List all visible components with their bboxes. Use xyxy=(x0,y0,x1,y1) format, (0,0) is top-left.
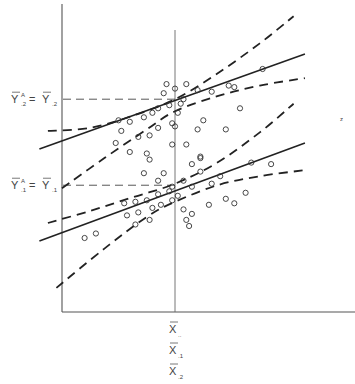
group-1-data-point xyxy=(141,171,146,176)
adjusted-mean-group-1-label: YA.1=Y.1 xyxy=(11,178,58,193)
adjusted-mean-symbol: Y xyxy=(11,179,19,191)
subscript: .2 xyxy=(178,374,184,380)
group-1-data-point xyxy=(93,231,98,236)
superscript: A xyxy=(21,178,25,184)
group-1-data-point xyxy=(189,211,194,216)
group-1-data-point xyxy=(136,210,141,215)
group-1-data-point xyxy=(156,192,161,197)
group-1-data-point xyxy=(147,157,152,162)
group-1-data-point xyxy=(184,217,189,222)
group-1-data-point xyxy=(158,202,163,207)
group-2-data-point xyxy=(167,103,172,108)
group-1-data-point xyxy=(147,217,152,222)
group-1-data-point xyxy=(181,207,186,212)
group-2-data-point xyxy=(164,82,169,87)
group-1-data-point xyxy=(189,162,194,167)
group-2-data-point xyxy=(144,151,149,156)
superscript: A xyxy=(21,92,25,98)
group-2-data-point xyxy=(170,121,175,126)
x-mean-symbol: X xyxy=(169,323,177,335)
group-mean-symbol: Y xyxy=(42,179,50,191)
group-1-data-point xyxy=(156,178,161,183)
group-2-data-point xyxy=(150,110,155,115)
group-2-data-point xyxy=(184,142,189,147)
group-1-data-point xyxy=(133,222,138,227)
group-1-data-point xyxy=(269,162,274,167)
group-1-data-point xyxy=(124,213,129,218)
group-1-data-point xyxy=(170,142,175,147)
group-1-data-point xyxy=(206,202,211,207)
group-mean-symbol: Y xyxy=(42,93,50,105)
x-mean-symbol: X xyxy=(169,365,177,377)
subscript: .. xyxy=(178,332,182,338)
subscript: .1 xyxy=(178,353,184,359)
group-1-data-point xyxy=(198,169,203,174)
group-2-data-point xyxy=(127,119,132,124)
grand-mean-label: X.. xyxy=(169,322,182,338)
group-1-lower-confidence-band xyxy=(56,170,305,288)
group-2-data-point xyxy=(119,128,124,133)
subscript: .2 xyxy=(52,101,58,107)
group-1-data-point xyxy=(170,198,175,203)
ancova-diagram: YA.2=Y.2YA.1=Y.1 X..X.1X.2 z xyxy=(0,0,355,384)
group-2-data-point xyxy=(184,82,189,87)
group-2-data-point xyxy=(156,125,161,130)
group-2-data-point xyxy=(232,85,237,90)
x-mean-symbol: X xyxy=(169,344,177,356)
group-1-data-point xyxy=(122,201,127,206)
group-1-data-point xyxy=(209,181,214,186)
equals-sign: = xyxy=(29,179,35,191)
group-1-data-point xyxy=(187,223,192,228)
group-1-series xyxy=(39,104,305,288)
group-2-data-point xyxy=(237,106,242,111)
group-2-data-point xyxy=(226,83,231,88)
subscript: .2 xyxy=(21,101,27,107)
adjusted-mean-group-2-label: YA.2=Y.2 xyxy=(11,92,58,107)
group-2-data-point xyxy=(113,140,118,145)
group-2-data-point xyxy=(141,115,146,120)
group-1-mean-label: X.1 xyxy=(169,343,184,359)
group-2-data-point xyxy=(201,118,206,123)
group-2-upper-confidence-band xyxy=(48,16,294,131)
stray-mark: z xyxy=(340,116,343,122)
subscript: .1 xyxy=(52,187,58,193)
group-2-mean-label: X.2 xyxy=(169,364,184,380)
group-2-data-point xyxy=(161,91,166,96)
group-2-data-point xyxy=(147,133,152,138)
group-2-series xyxy=(39,16,305,188)
group-1-data-point xyxy=(175,193,180,198)
subscript: .1 xyxy=(21,187,27,193)
group-1-data-point xyxy=(150,205,155,210)
group-1-data-point xyxy=(223,196,228,201)
group-2-data-point xyxy=(209,89,214,94)
group-1-data-point xyxy=(243,190,248,195)
equals-sign: = xyxy=(29,93,35,105)
group-1-data-point xyxy=(161,171,166,176)
adjusted-mean-symbol: Y xyxy=(11,93,19,105)
group-1-data-point xyxy=(82,235,87,240)
group-2-data-point xyxy=(223,127,228,132)
group-2-data-point xyxy=(127,149,132,154)
group-1-data-point xyxy=(232,201,237,206)
group-1-data-point xyxy=(133,199,138,204)
group-2-data-point xyxy=(195,127,200,132)
